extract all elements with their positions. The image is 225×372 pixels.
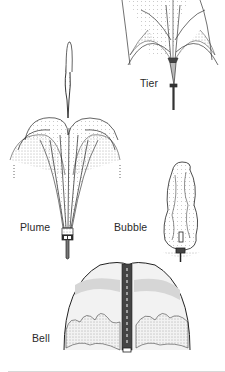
tier-fountain [122,0,218,110]
bubble-label: Bubble [114,221,147,233]
bubble-fountain [163,162,200,262]
plume-label: Plume [20,221,50,233]
tier-label: Tier [140,77,158,89]
bell-label: Bell [32,332,50,344]
fountain-types-illustration [0,0,225,372]
bell-fountain [64,263,190,353]
